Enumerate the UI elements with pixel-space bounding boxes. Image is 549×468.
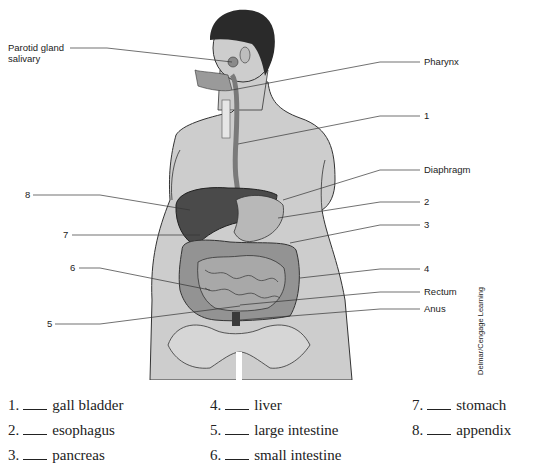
answer-number: 8. xyxy=(412,422,423,438)
answer-number: 4. xyxy=(210,397,221,413)
callout-anus: Anus xyxy=(424,303,446,314)
answer-number: 2. xyxy=(8,422,19,438)
answer-blank[interactable] xyxy=(225,424,249,435)
answer-blank[interactable] xyxy=(23,399,47,410)
answer-item: 1.gall bladder xyxy=(8,397,123,414)
answer-blank[interactable] xyxy=(427,424,451,435)
answer-term: small intestine xyxy=(254,447,341,463)
answer-item: 8.appendix xyxy=(412,422,511,439)
answer-blank[interactable] xyxy=(225,449,249,460)
answer-blank[interactable] xyxy=(23,424,47,435)
answer-term: pancreas xyxy=(52,447,104,463)
answer-blank[interactable] xyxy=(427,399,451,410)
answer-number: 3. xyxy=(8,447,19,463)
answer-term: stomach xyxy=(456,397,506,413)
answer-number: 5. xyxy=(210,422,221,438)
digestive-system-illustration xyxy=(0,0,549,380)
answer-item: 6.small intestine xyxy=(210,447,341,464)
callout-7: 7 xyxy=(63,229,68,240)
answer-term: gall bladder xyxy=(52,397,123,413)
callout-pharynx: Pharynx xyxy=(424,56,459,67)
digestive-system-figure: Parotid gland salivary 8 7 6 5 Pharynx 1… xyxy=(0,0,549,380)
answer-item: 4.liver xyxy=(210,397,282,414)
callout-rectum: Rectum xyxy=(424,286,457,297)
callout-2: 2 xyxy=(424,196,429,207)
answer-term: appendix xyxy=(456,422,511,438)
answer-item: 3.pancreas xyxy=(8,447,105,464)
answer-blank[interactable] xyxy=(225,399,249,410)
answer-item: 5.large intestine xyxy=(210,422,339,439)
answer-term: large intestine xyxy=(254,422,338,438)
callout-3: 3 xyxy=(424,219,429,230)
image-credit: Delmar/Cengage Learning xyxy=(476,287,485,375)
callout-label-secondary: salivary xyxy=(8,53,64,64)
answer-item: 2.esophagus xyxy=(8,422,115,439)
answer-blank[interactable] xyxy=(23,449,47,460)
callout-6: 6 xyxy=(70,262,75,273)
callout-label: Parotid gland xyxy=(8,42,64,53)
answer-term: esophagus xyxy=(52,422,115,438)
callout-1: 1 xyxy=(424,110,429,121)
callout-parotid-gland: Parotid gland salivary xyxy=(8,42,64,64)
callout-diaphragm: Diaphragm xyxy=(424,164,470,175)
callout-8: 8 xyxy=(25,189,30,200)
callout-4: 4 xyxy=(424,263,429,274)
answer-item: 7.stomach xyxy=(412,397,506,414)
callout-5: 5 xyxy=(47,318,52,329)
answer-term: liver xyxy=(254,397,282,413)
answer-number: 1. xyxy=(8,397,19,413)
answer-number: 7. xyxy=(412,397,423,413)
answer-number: 6. xyxy=(210,447,221,463)
